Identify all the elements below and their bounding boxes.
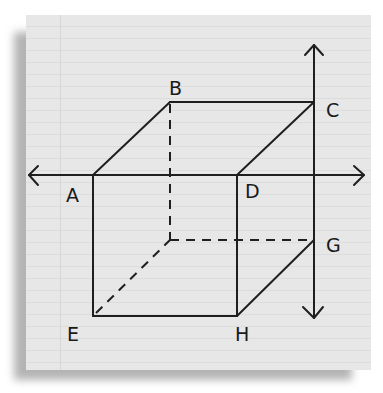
edge-CD: [237, 102, 314, 175]
label-G: G: [326, 234, 341, 256]
label-H: H: [235, 323, 249, 345]
hidden-edge-EF: [96, 240, 170, 313]
label-C: C: [326, 99, 339, 121]
label-E: E: [67, 323, 79, 345]
edge-HG: [237, 240, 314, 316]
label-D: D: [245, 180, 260, 202]
label-B: B: [169, 77, 182, 99]
label-A: A: [66, 184, 79, 206]
cube-diagram: A B C D E G H: [0, 0, 383, 393]
edge-AB: [93, 102, 170, 175]
